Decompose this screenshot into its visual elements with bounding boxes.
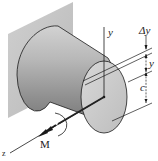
moment-arrowhead-2: [43, 126, 53, 134]
y-axis-label: y: [108, 27, 113, 38]
z-axis-label: z: [2, 150, 6, 158]
moment-arrowhead-1: [38, 129, 48, 137]
y-dim-arrow-bottom: [145, 68, 148, 72]
diagram-canvas: [0, 0, 158, 161]
moment-label: M: [40, 139, 50, 150]
delta-y-arrowhead: [145, 45, 148, 50]
c-dim-arrow-bottom: [145, 99, 148, 103]
moment-curl-arc: [55, 113, 67, 136]
y-dimension-label: y: [149, 58, 154, 69]
c-dimension-label: c: [140, 82, 145, 93]
delta-y-label: Δy: [139, 25, 150, 36]
